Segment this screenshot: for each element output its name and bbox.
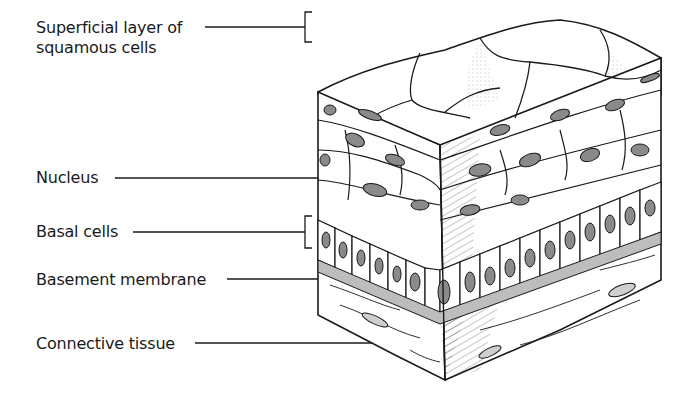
epithelium-illustration [0, 0, 700, 409]
